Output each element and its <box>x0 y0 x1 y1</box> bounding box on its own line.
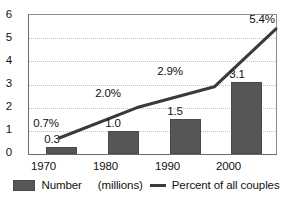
chart-legend: Number (millions) Percent of all couples <box>0 179 293 191</box>
legend-label-number-unit: (millions) <box>98 179 143 191</box>
y-axis-tick-4: 4 <box>0 55 12 67</box>
x-axis-label-2000: 2000 <box>193 160 264 172</box>
y-axis-tick-6: 6 <box>0 9 12 21</box>
bar-data-label-2000: 3.1 <box>213 69 261 81</box>
y-axis-tick-5: 5 <box>0 32 12 44</box>
percent-data-label-1990: 2.9% <box>146 66 194 78</box>
y-axis-tick-3: 3 <box>0 78 12 90</box>
bar-data-label-1980: 1.0 <box>89 118 137 130</box>
percent-data-label-1980: 2.0% <box>84 88 132 100</box>
legend-item-percent: Percent of all couples <box>150 179 280 191</box>
percent-data-label-1970: 0.7% <box>22 118 70 130</box>
legend-bar-swatch-icon <box>13 180 35 191</box>
x-axis-label-1970: 1970 <box>8 160 79 172</box>
bar-data-label-1990: 1.5 <box>151 106 199 118</box>
legend-item-number: Number (millions) <box>13 179 142 191</box>
bar-data-label-1970: 0.3 <box>28 134 76 146</box>
percent-data-label-2000: 5.4% <box>237 14 287 26</box>
legend-label-number-main: Number <box>41 179 81 191</box>
legend-label-percent: Percent of all couples <box>172 179 280 191</box>
y-axis-tick-2: 2 <box>0 101 12 113</box>
y-axis-tick-1: 1 <box>0 124 12 136</box>
combo-bar-line-chart: 6 5 4 3 2 1 0 0.3 1.0 1.5 3.1 0.7% 2.0% … <box>0 0 293 204</box>
x-axis-label-1980: 1980 <box>70 160 141 172</box>
y-axis-tick-0: 0 <box>0 147 12 159</box>
legend-line-swatch-icon <box>150 184 166 187</box>
